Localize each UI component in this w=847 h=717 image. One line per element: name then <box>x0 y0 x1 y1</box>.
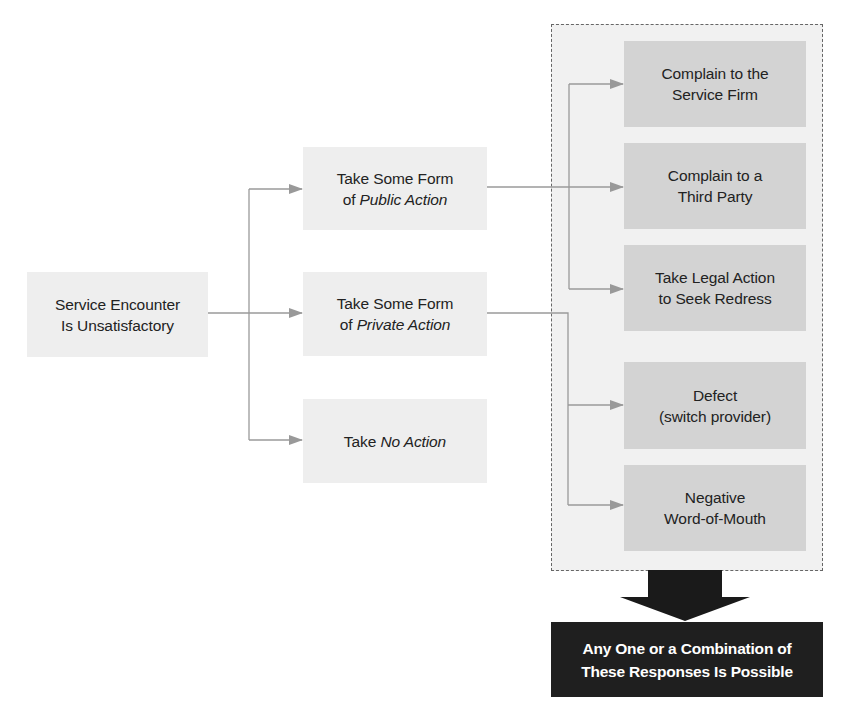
response-complain-third-party: Complain to a Third Party <box>624 143 806 229</box>
response-text: Third Party <box>668 186 762 207</box>
box-text: Take Some Form <box>337 295 454 312</box>
response-text: Word-of-Mouth <box>664 508 766 529</box>
big-down-arrow-icon <box>620 570 750 621</box>
response-complain-service-firm: Complain to the Service Firm <box>624 41 806 127</box>
response-legal-action: Take Legal Action to Seek Redress <box>624 245 806 331</box>
response-text: Service Firm <box>661 84 768 105</box>
caption-text: Any One or a Combination of <box>581 637 793 660</box>
response-text: to Seek Redress <box>655 288 775 309</box>
response-text: Take Legal Action <box>655 267 775 288</box>
start-box-unsatisfactory-encounter: Service Encounter Is Unsatisfactory <box>27 272 208 357</box>
start-box-line: Is Unsatisfactory <box>55 315 180 336</box>
caption-box: Any One or a Combination of These Respon… <box>551 622 823 697</box>
response-text: Complain to a <box>668 165 762 186</box>
box-text-emphasis: Private Action <box>357 316 451 333</box>
box-text: Take Some Form <box>337 170 454 187</box>
response-text: Negative <box>664 487 766 508</box>
response-text: Complain to the <box>661 63 768 84</box>
response-text: (switch provider) <box>659 406 771 427</box>
box-no-action: Take No Action <box>303 399 487 483</box>
box-private-action: Take Some Form of Private Action <box>303 272 487 356</box>
box-text-emphasis: No Action <box>380 433 446 450</box>
caption-text: These Responses Is Possible <box>581 660 793 683</box>
response-defect: Defect (switch provider) <box>624 362 806 449</box>
box-text-emphasis: Public Action <box>360 191 448 208</box>
box-text: of <box>343 191 360 208</box>
box-text: Take <box>344 433 381 450</box>
response-negative-word-of-mouth: Negative Word-of-Mouth <box>624 465 806 551</box>
start-box-line: Service Encounter <box>55 294 180 315</box>
box-text: of <box>340 316 357 333</box>
response-text: Defect <box>659 385 771 406</box>
box-public-action: Take Some Form of Public Action <box>303 147 487 230</box>
